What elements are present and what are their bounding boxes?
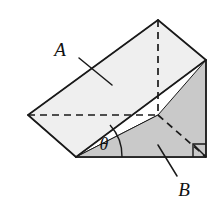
label-b: B [178,179,190,200]
figure-container: A B θ [0,0,224,202]
label-theta: θ [100,134,109,154]
label-a: A [52,39,66,60]
wedge-diagram-svg: A B θ [0,0,224,202]
